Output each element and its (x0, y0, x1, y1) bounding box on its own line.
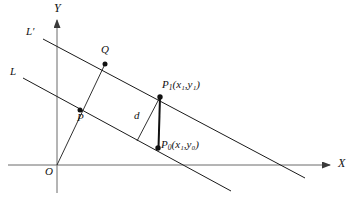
geometry-figure: Y X O L′ L Q P P1(x₁,y₁) P0(x₁,y₀) d (0, 0, 351, 199)
origin-label: O (45, 166, 53, 177)
point-P1-coords: (x₁,y₁) (172, 78, 200, 90)
point-P0-coords: (x₁,y₀) (171, 138, 199, 150)
point-P0-base: P (161, 138, 168, 150)
point-P-label: P (77, 112, 84, 123)
y-axis-label: Y (54, 2, 61, 14)
point-P1-dot (157, 94, 162, 99)
line-L-prime-label: L′ (26, 26, 35, 37)
point-Q-label: Q (101, 44, 109, 55)
line-L-prime (43, 39, 305, 178)
segment-distance-d (137, 97, 160, 141)
distance-d-label: d (134, 110, 140, 121)
point-Q-dot (103, 62, 108, 67)
point-P1-base: P (162, 78, 169, 90)
point-P0-dot (155, 145, 160, 150)
x-axis-label: X (338, 157, 345, 169)
segment-P1-P0 (159, 97, 161, 148)
line-L (23, 78, 231, 191)
point-P0-label: P0(x₁,y₀) (161, 139, 199, 152)
line-L-label: L (10, 66, 16, 77)
point-P1-label: P1(x₁,y₁) (162, 79, 200, 92)
